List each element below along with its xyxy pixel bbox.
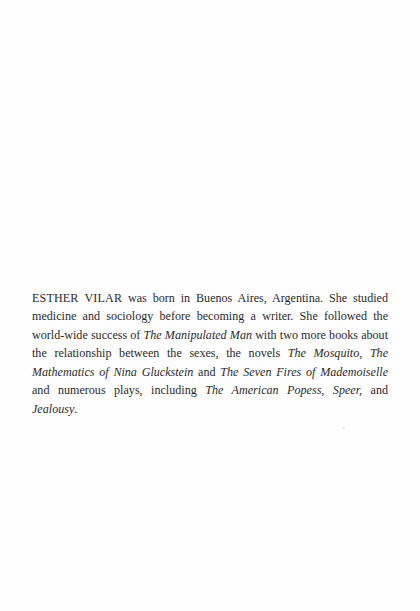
bio-conjunction-and-1: and — [193, 365, 220, 379]
author-biography-block: ESTHER VILAR was born in Buenos Aires, A… — [32, 289, 388, 418]
author-biography-paragraph: ESTHER VILAR was born in Buenos Aires, A… — [32, 289, 388, 418]
bio-terminal-period: . — [74, 402, 77, 416]
work-title-jealousy: Jealousy — [32, 402, 74, 416]
work-title-speer: Speer, — [333, 383, 362, 397]
bio-conjunction-and-2: and — [362, 383, 388, 397]
bio-text-numerous-plays: and numerous plays, including — [32, 383, 205, 397]
work-title-the-manipulated-man: The Manipulated Man — [144, 328, 252, 342]
bio-separator-comma-2: , — [321, 383, 332, 397]
work-title-the-mosquito: The Mosquito — [288, 346, 359, 360]
book-page: ESTHER VILAR was born in Buenos Aires, A… — [0, 0, 420, 611]
scan-speck — [342, 427, 345, 429]
author-name: ESTHER VILAR — [32, 291, 122, 305]
work-title-the-seven-fires-of-mademoiselle: The Seven Fires of Mademoiselle — [220, 365, 388, 379]
bio-separator-comma-1: , — [359, 346, 370, 360]
work-title-the-american-popess: The American Popess — [205, 383, 321, 397]
